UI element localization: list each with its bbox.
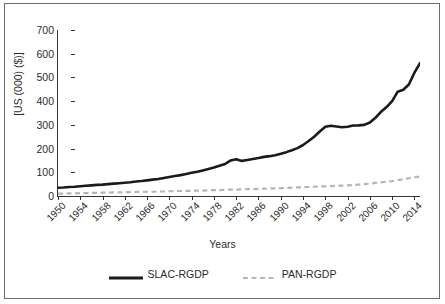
x-axis-tick-label: 1982 — [218, 200, 246, 228]
legend-entry: SLAC-RGDP — [109, 268, 209, 280]
x-axis-tick-label: 1986 — [241, 200, 269, 228]
x-axis-tick-labels: 1950195419581962196619701974197819821986… — [0, 0, 445, 304]
x-axis-tick-label: 1954 — [62, 200, 90, 228]
x-axis-tick-label: 2014 — [397, 200, 425, 228]
legend-line-swatch — [243, 269, 277, 279]
x-axis-tick-label: 1994 — [285, 200, 313, 228]
x-axis-tick-label: 2010 — [374, 200, 402, 228]
chart-figure: [US (000) ($)] 0100200300400500600700 19… — [0, 0, 445, 304]
legend-label: SLAC-RGDP — [148, 268, 209, 280]
x-axis-tick-label: 1998 — [308, 200, 336, 228]
x-axis-tick-label: 1962 — [107, 200, 135, 228]
legend-separator — [12, 262, 432, 263]
x-axis-tick-label: 1978 — [196, 200, 224, 228]
x-axis-tick-label: 1958 — [85, 200, 113, 228]
x-axis-tick-mark — [281, 196, 282, 200]
x-axis-tick-label: 1974 — [174, 200, 202, 228]
x-axis-tick-label: 1950 — [40, 200, 68, 228]
x-axis-title: Years — [0, 238, 445, 250]
x-axis-tick-label: 2002 — [330, 200, 358, 228]
legend-entry: PAN-RGDP — [243, 268, 337, 280]
x-axis-tick-mark — [192, 196, 193, 200]
legend-line-swatch — [109, 269, 143, 279]
x-axis-tick-mark — [103, 196, 104, 200]
chart-legend: SLAC-RGDPPAN-RGDP — [0, 268, 445, 280]
x-axis-tick-label: 1970 — [152, 200, 180, 228]
x-axis-tick-label: 1990 — [263, 200, 291, 228]
x-axis-tick-label: 1966 — [129, 200, 157, 228]
legend-label: PAN-RGDP — [282, 268, 337, 280]
x-axis-tick-mark — [348, 196, 349, 200]
x-axis-tick-label: 2006 — [352, 200, 380, 228]
